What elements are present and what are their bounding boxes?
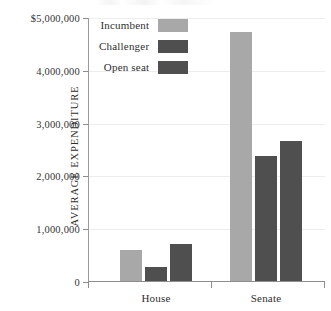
legend-swatch-open-seat: [158, 61, 188, 74]
x-axis-group-label: House: [141, 292, 170, 304]
legend-item: Incumbent: [99, 18, 188, 32]
bar: [255, 156, 277, 281]
y-tick-label: 1,000,000: [36, 224, 80, 235]
y-tick-label: 2,000,000: [36, 171, 80, 182]
gridline: [89, 124, 325, 125]
bar-chart: AVERAGE EXPENDITURE 01,000,0002,000,0003…: [0, 0, 331, 311]
y-tick-mark: [83, 229, 88, 230]
x-axis-line: [88, 281, 325, 282]
x-axis-start-tick: [88, 281, 89, 288]
y-tick-label: $5,000,000: [31, 13, 80, 24]
legend-item: Challenger: [99, 39, 188, 53]
y-tick-mark: [83, 71, 88, 72]
bar: [230, 32, 252, 281]
y-tick-label: 0: [75, 277, 80, 288]
y-tick-label: 4,000,000: [36, 65, 80, 76]
legend: Incumbent Challenger Open seat: [99, 18, 188, 74]
legend-swatch-incumbent: [158, 19, 188, 32]
group-separator-tick: [211, 281, 212, 288]
x-axis-group-label: Senate: [251, 292, 282, 304]
y-tick-mark: [83, 176, 88, 177]
legend-item-label: Challenger: [99, 40, 149, 52]
y-axis-title: AVERAGE EXPENDITURE: [69, 85, 80, 226]
bar: [170, 244, 192, 281]
y-tick-mark: [83, 124, 88, 125]
y-tick-label: 3,000,000: [36, 118, 80, 129]
y-tick-mark: [83, 18, 88, 19]
legend-item: Open seat: [99, 60, 188, 74]
y-axis-line: [88, 18, 89, 282]
y-axis-title-container: AVERAGE EXPENDITURE: [6, 0, 26, 311]
legend-item-label: Open seat: [104, 61, 149, 73]
bar: [120, 250, 142, 281]
x-axis-end-tick: [324, 281, 325, 288]
bar: [145, 267, 167, 281]
bar: [280, 141, 302, 281]
legend-swatch-challenger: [158, 40, 188, 53]
legend-item-label: Incumbent: [100, 19, 149, 31]
scan-artifact: [96, 0, 216, 5]
